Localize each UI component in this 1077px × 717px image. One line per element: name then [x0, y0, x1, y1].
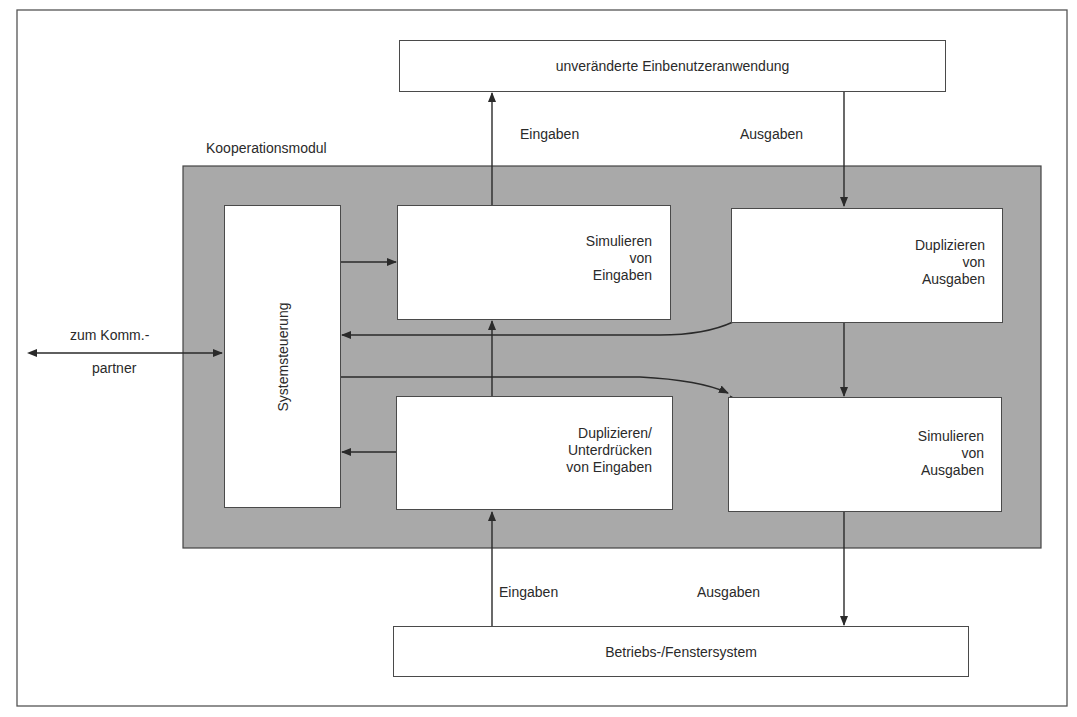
top-outputs-label: Ausgaben — [740, 126, 803, 143]
bottom-outputs-label: Ausgaben — [697, 584, 760, 601]
simulate-inputs-text: Simulieren von Eingaben — [586, 233, 652, 284]
diagram-canvas — [0, 0, 1077, 717]
simulate-inputs-block: Simulieren von Eingaben — [397, 205, 671, 320]
single-user-application-box: unveränderte Einbenutzeranwendung — [399, 40, 946, 92]
simulate-outputs-text: Simulieren von Ausgaben — [918, 428, 984, 479]
duplicate-suppress-inputs-text: Duplizieren/ Unterdrücken von Eingaben — [566, 425, 652, 476]
single-user-application-label: unveränderte Einbenutzeranwendung — [556, 58, 790, 74]
duplicate-suppress-inputs-block: Duplizieren/ Unterdrücken von Eingaben — [396, 396, 673, 510]
partner-label-line2: partner — [92, 360, 136, 377]
partner-label-line1: zum Komm.- — [70, 327, 149, 344]
top-inputs-label: Eingaben — [520, 126, 579, 143]
window-system-box: Betriebs-/Fenstersystem — [393, 626, 969, 677]
duplicate-outputs-text: Duplizieren von Ausgaben — [915, 237, 985, 288]
duplicate-outputs-block: Duplizieren von Ausgaben — [731, 208, 1003, 323]
system-control-box: Systemsteuerung — [224, 205, 341, 508]
window-system-label: Betriebs-/Fenstersystem — [605, 644, 757, 660]
bottom-inputs-label: Eingaben — [499, 584, 558, 601]
simulate-outputs-block: Simulieren von Ausgaben — [728, 397, 1002, 512]
system-control-label: Systemsteuerung — [275, 302, 291, 411]
cooperation-module-label: Kooperationsmodul — [206, 140, 327, 157]
